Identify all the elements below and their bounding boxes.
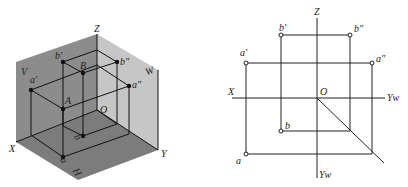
ortho-label-a-double-prime: a": [376, 53, 386, 64]
ortho-point-b-prime: [279, 33, 283, 37]
ortho-label-b-prime: b': [279, 22, 287, 33]
ortho-label-a: a: [236, 155, 241, 166]
label-o: O: [100, 104, 107, 115]
point-a-double-prime: [127, 84, 131, 88]
ortho-label-b-double-prime: b": [354, 23, 364, 34]
ortho-point-a: [244, 152, 248, 156]
ortho-point-a-prime: [244, 61, 248, 65]
point-B: [81, 71, 85, 75]
ortho-point-a-double-prime: [370, 61, 374, 65]
point-b-double-prime: [115, 60, 119, 64]
ortho-label-x: X: [227, 86, 235, 97]
label-b-double-prime: b": [120, 56, 130, 67]
label-b-prime: b': [55, 50, 63, 61]
ortho-point-b: [279, 129, 283, 133]
orthographic-figure: [232, 18, 385, 178]
ortho-label-b: b: [285, 120, 290, 131]
label-a-double-prime: a": [132, 79, 142, 90]
ortho-point-b-double-prime: [348, 33, 352, 37]
point-A: [61, 107, 65, 111]
ortho-label-yw-bottom: Yw: [319, 169, 332, 180]
label-B: B: [80, 60, 86, 71]
ortho-label-yw-right: Yw: [387, 92, 400, 103]
isometric-figure: Z V W H X Y O b' b" B a' a" A b a: [8, 23, 168, 180]
label-y: Y: [161, 148, 168, 159]
label-x: X: [8, 143, 16, 154]
point-a-prime: [29, 88, 33, 92]
label-a-prime: a': [30, 74, 38, 85]
label-z: Z: [94, 23, 100, 34]
ortho-label-a-prime: a': [240, 47, 248, 58]
ortho-label-o: O: [320, 86, 327, 97]
label-A: A: [64, 95, 72, 106]
ortho-label-z: Z: [314, 6, 320, 17]
projection-diagram: Z V W H X Y O b' b" B a' a" A b a: [0, 0, 408, 187]
